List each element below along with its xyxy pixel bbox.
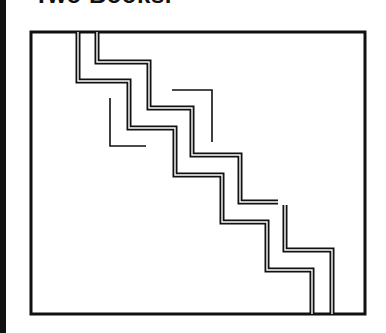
- staircase-diagram: [0, 0, 386, 333]
- outer-staircase-line: [78, 32, 312, 314]
- lower-right-line: [285, 205, 332, 314]
